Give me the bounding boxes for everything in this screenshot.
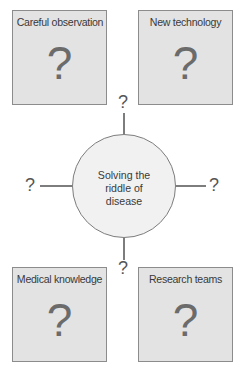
spoke-line-bottom: [123, 238, 125, 260]
center-label-line: riddle of: [77, 182, 171, 195]
center-circle: Solving the riddle of disease: [72, 134, 176, 238]
box-research-teams: Research teams ?: [138, 267, 233, 362]
box-new-technology: New technology ?: [138, 10, 233, 105]
spoke-line-right: [176, 185, 206, 187]
spoke-line-top: [123, 113, 125, 134]
box-medical-knowledge: Medical knowledge ?: [12, 267, 107, 362]
box-title: Careful observation: [17, 16, 103, 28]
box-title: Medical knowledge: [17, 273, 103, 285]
box-title: Research teams: [143, 273, 229, 285]
spoke-question-top: ?: [118, 92, 128, 112]
center-label-line: disease: [77, 195, 171, 208]
center-label-line: Solving the: [77, 169, 171, 182]
question-mark-icon: ?: [13, 37, 106, 89]
center-label: Solving the riddle of disease: [77, 169, 171, 208]
spoke-question-right: ?: [209, 175, 219, 195]
box-careful-observation: Careful observation ?: [12, 10, 107, 105]
question-mark-icon: ?: [139, 37, 232, 89]
box-title: New technology: [143, 16, 229, 28]
spoke-question-left: ?: [25, 175, 35, 195]
spoke-question-bottom: ?: [118, 258, 128, 278]
question-mark-icon: ?: [13, 294, 106, 346]
question-mark-icon: ?: [139, 294, 232, 346]
spoke-line-left: [40, 185, 72, 187]
